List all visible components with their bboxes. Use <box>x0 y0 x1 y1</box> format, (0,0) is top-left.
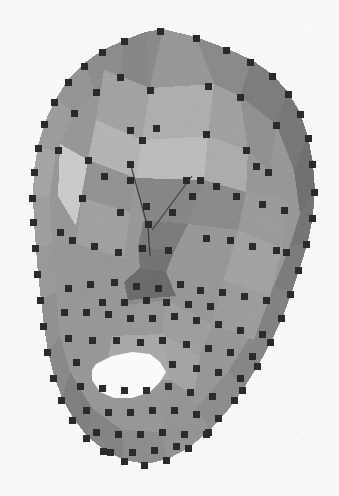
vertex-marker-126 <box>231 397 238 404</box>
vertex-marker-69 <box>213 183 220 190</box>
vertex-marker-132 <box>193 411 200 418</box>
vertex-marker-114 <box>73 359 80 366</box>
vertex-marker-128 <box>105 409 112 416</box>
vertex-marker-85 <box>87 281 94 288</box>
vertex-marker-50 <box>85 157 92 164</box>
vertex-marker-139 <box>203 431 210 438</box>
vertex-marker-75 <box>139 245 146 252</box>
vertex-marker-91 <box>219 289 226 296</box>
vertex-marker-32 <box>50 375 57 382</box>
vertex-marker-45 <box>147 87 154 94</box>
vertex-marker-59 <box>233 193 240 200</box>
vertex-marker-105 <box>65 335 72 342</box>
vertex-marker-34 <box>69 417 76 424</box>
vertex-marker-134 <box>93 429 100 436</box>
vertex-marker-77 <box>91 243 98 250</box>
vertex-marker-51 <box>205 83 212 90</box>
vertex-marker-88 <box>155 285 162 292</box>
vertex-marker-62 <box>127 177 134 184</box>
vertex-marker-86 <box>111 279 118 286</box>
vertex-marker-112 <box>227 349 234 356</box>
vertex-marker-0 <box>157 28 164 35</box>
vertex-marker-33 <box>58 397 65 404</box>
vertex-marker-131 <box>171 407 178 414</box>
vertex-marker-76 <box>115 249 122 256</box>
vertex-marker-17 <box>29 195 36 202</box>
vertex-marker-64 <box>79 195 86 202</box>
vertex-marker-44 <box>153 125 160 132</box>
vertex-marker-135 <box>115 431 122 438</box>
vertex-marker-147 <box>163 299 170 306</box>
vertex-marker-8 <box>65 79 72 86</box>
vertex-marker-83 <box>273 247 280 254</box>
vertex-marker-63 <box>101 173 108 180</box>
vertex-marker-43 <box>127 127 134 134</box>
vertex-marker-67 <box>169 209 176 216</box>
vertex-marker-148 <box>185 301 192 308</box>
vertex-marker-20 <box>311 189 318 196</box>
vertex-marker-130 <box>149 407 156 414</box>
vertex-marker-46 <box>117 74 124 81</box>
vertex-marker-122 <box>143 387 150 394</box>
vertex-marker-117 <box>215 369 222 376</box>
vertex-marker-24 <box>34 271 41 278</box>
vertex-marker-58 <box>197 177 204 184</box>
vertex-marker-53 <box>273 122 280 129</box>
vertex-marker-111 <box>205 345 212 352</box>
vertex-marker-124 <box>187 389 194 396</box>
vertex-marker-1 <box>121 38 128 45</box>
vertex-marker-79 <box>57 229 64 236</box>
vertex-marker-92 <box>241 293 248 300</box>
vertex-marker-149 <box>207 303 214 310</box>
vertex-marker-141 <box>129 449 136 456</box>
vertex-marker-42 <box>141 462 148 469</box>
vertex-marker-61 <box>281 207 288 214</box>
vertex-marker-73 <box>183 177 190 184</box>
vertex-marker-40 <box>100 448 107 455</box>
vertex-marker-71 <box>127 161 134 168</box>
vertex-marker-9 <box>51 99 58 106</box>
vertex-marker-93 <box>263 297 270 304</box>
vertex-marker-72 <box>145 221 152 228</box>
vertex-marker-106 <box>89 337 96 344</box>
vertex-marker-27 <box>44 349 51 356</box>
vertex-marker-109 <box>159 337 166 344</box>
vertex-marker-4 <box>193 35 200 42</box>
vertex-marker-97 <box>105 311 112 318</box>
vertex-marker-49 <box>55 147 62 154</box>
vertex-marker-14 <box>305 135 312 142</box>
vertex-marker-12 <box>285 91 292 98</box>
vertex-marker-113 <box>249 353 256 360</box>
vertex-marker-100 <box>171 313 178 320</box>
vertex-marker-145 <box>121 299 128 306</box>
vertex-marker-10 <box>41 121 48 128</box>
vertex-marker-115 <box>169 361 176 368</box>
vertex-marker-60 <box>259 201 266 208</box>
vertex-marker-22 <box>303 241 310 248</box>
vertex-marker-18 <box>30 219 37 226</box>
vertex-marker-66 <box>143 203 150 210</box>
vertex-marker-138 <box>181 431 188 438</box>
vertex-marker-3 <box>81 63 88 70</box>
vertex-marker-136 <box>137 431 144 438</box>
vertex-marker-120 <box>99 385 106 392</box>
vertex-marker-82 <box>249 243 256 250</box>
vertex-marker-84 <box>65 285 72 292</box>
vertex-marker-123 <box>165 383 172 390</box>
vertex-marker-55 <box>243 147 250 154</box>
vertex-marker-119 <box>77 383 84 390</box>
vertex-marker-47 <box>93 89 100 96</box>
vertex-marker-127 <box>83 407 90 414</box>
vertex-marker-28 <box>287 291 294 298</box>
vertex-marker-146 <box>99 299 106 306</box>
vertex-marker-56 <box>203 131 210 138</box>
vertex-marker-101 <box>193 317 200 324</box>
vertex-marker-19 <box>32 245 39 252</box>
vertex-marker-129 <box>127 409 134 416</box>
vertex-marker-107 <box>113 337 120 344</box>
vertex-marker-99 <box>149 315 156 322</box>
vertex-marker-121 <box>121 387 128 394</box>
vertex-marker-25 <box>37 297 44 304</box>
vertex-marker-54 <box>265 169 272 176</box>
vertex-marker-15 <box>309 161 316 168</box>
